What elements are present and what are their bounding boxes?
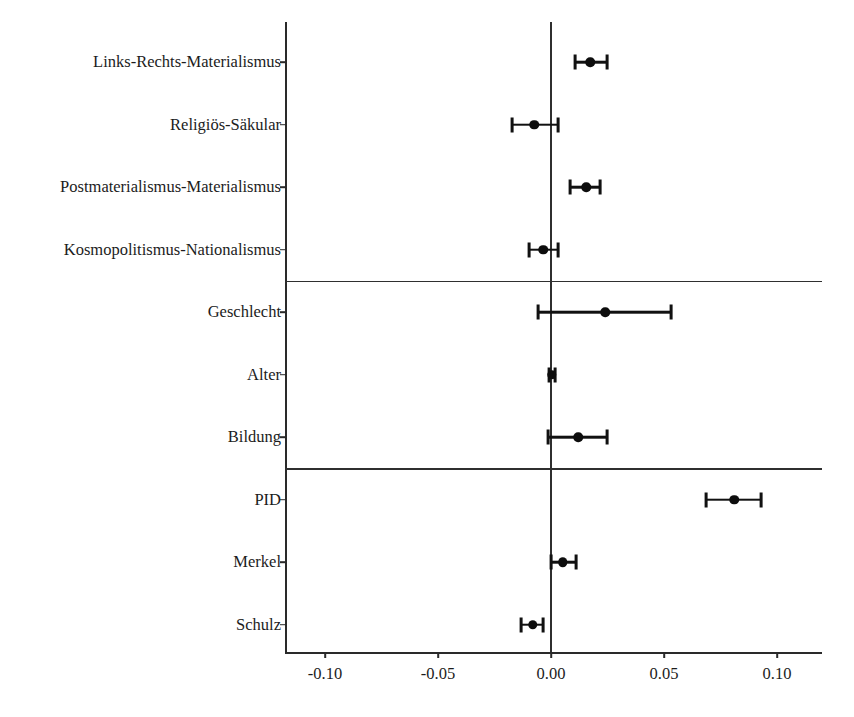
point-estimate-marker <box>585 57 595 67</box>
group-separator-line-1 <box>285 281 822 282</box>
x-axis-line <box>285 652 822 654</box>
coefficient-plot-figure: -0.10-0.050.000.050.10Links-Rechts-Mater… <box>0 0 854 717</box>
y-axis-tick <box>280 311 286 313</box>
y-axis-tick <box>280 499 286 501</box>
y-axis-label-3: Postmaterialismus-Materialismus <box>0 177 290 197</box>
y-axis-label-6: Alter <box>0 365 290 385</box>
y-axis-label-8: PID <box>0 490 290 510</box>
x-axis-tick-label: 0.05 <box>650 664 679 684</box>
ci-upper-cap <box>670 305 673 320</box>
point-estimate-marker <box>729 495 739 505</box>
y-axis-tick <box>280 61 286 63</box>
y-axis-tick <box>280 124 286 126</box>
y-axis-label-10: Schulz <box>0 615 290 635</box>
y-axis-tick <box>280 186 286 188</box>
y-axis-label-4: Kosmopolitismus-Nationalismus <box>0 240 290 260</box>
ci-upper-cap <box>557 242 560 257</box>
y-axis-label-2: Religiös-Säkular <box>0 115 290 135</box>
x-axis-tick-label: -0.10 <box>308 664 342 684</box>
ci-upper-cap <box>575 555 578 570</box>
ci-lower-cap <box>528 242 531 257</box>
ci-upper-cap <box>599 180 602 195</box>
point-estimate-marker <box>547 370 557 380</box>
x-axis-tick <box>437 652 439 658</box>
y-axis-label-1: Links-Rechts-Materialismus <box>0 52 290 72</box>
y-axis-tick <box>280 436 286 438</box>
y-axis-label-9: Merkel <box>0 552 290 572</box>
y-axis-tick <box>280 624 286 626</box>
point-estimate-marker <box>538 245 548 255</box>
ci-lower-cap <box>550 555 553 570</box>
x-axis-tick-label: 0.00 <box>537 664 566 684</box>
ci-lower-cap <box>520 617 523 632</box>
point-estimate-marker <box>581 182 591 192</box>
x-axis-tick <box>550 652 552 658</box>
x-axis-tick-label: -0.05 <box>421 664 455 684</box>
x-axis-tick <box>663 652 665 658</box>
y-axis-tick <box>280 561 286 563</box>
ci-lower-cap <box>705 492 708 507</box>
plot-area: -0.10-0.050.000.050.10Links-Rechts-Mater… <box>0 0 854 717</box>
ci-lower-cap <box>574 55 577 70</box>
ci-lower-cap <box>547 430 550 445</box>
ci-upper-cap <box>606 55 609 70</box>
ci-lower-cap <box>510 117 513 132</box>
x-axis-tick <box>324 652 326 658</box>
y-axis-label-7: Bildung <box>0 427 290 447</box>
point-estimate-marker <box>600 307 610 317</box>
ci-lower-cap <box>536 305 539 320</box>
x-axis-tick-label: 0.10 <box>763 664 792 684</box>
point-estimate-marker <box>529 120 539 130</box>
ci-lower-cap <box>569 180 572 195</box>
point-estimate-marker <box>528 620 538 630</box>
x-axis-tick <box>776 652 778 658</box>
point-estimate-marker <box>558 557 568 567</box>
ci-upper-cap <box>606 430 609 445</box>
y-axis-tick <box>280 249 286 251</box>
group-separator-line-2 <box>285 468 822 469</box>
point-estimate-marker <box>573 432 583 442</box>
y-axis-label-5: Geschlecht <box>0 302 290 322</box>
y-axis-tick <box>280 374 286 376</box>
ci-upper-cap <box>542 617 545 632</box>
ci-upper-cap <box>557 117 560 132</box>
ci-upper-cap <box>760 492 763 507</box>
